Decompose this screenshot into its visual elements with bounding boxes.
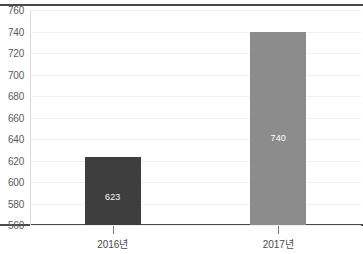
y-axis-tick-label: 720 [0, 48, 24, 59]
y-axis-tick-label: 600 [0, 177, 24, 188]
x-axis-tick [278, 226, 279, 234]
bar[interactable]: 740 [250, 32, 306, 226]
y-axis-tick-label: 760 [0, 5, 24, 16]
y-axis-tick-label: 640 [0, 134, 24, 145]
x-axis-category-label: 2016년 [63, 236, 163, 251]
bars-layer: 623740 [30, 10, 361, 225]
y-axis-tick-label: 740 [0, 26, 24, 37]
bar-value-label: 623 [85, 192, 141, 202]
y-axis-tick-label: 580 [0, 198, 24, 209]
gridline [30, 225, 361, 226]
x-axis-category-label: 2017년 [228, 236, 328, 251]
y-axis-tick-label: 700 [0, 69, 24, 80]
y-axis-tick-label: 660 [0, 112, 24, 123]
y-axis-tick-label: 680 [0, 91, 24, 102]
bar[interactable]: 623 [85, 157, 141, 225]
bar-value-label: 740 [250, 133, 306, 143]
y-axis-tick-label: 560 [0, 220, 24, 231]
chart-top-rule [0, 4, 363, 6]
bar-chart: 560580600620640660680700720740760 623740… [0, 0, 363, 254]
x-axis-tick [113, 226, 114, 234]
y-axis-tick-label: 620 [0, 155, 24, 166]
